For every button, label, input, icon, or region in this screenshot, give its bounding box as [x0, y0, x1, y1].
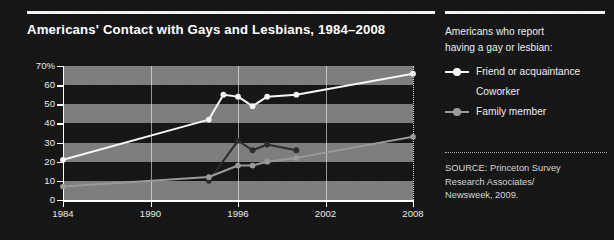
legend-item[interactable]: Coworker: [445, 82, 613, 102]
series-data-point: [410, 134, 416, 140]
series-data-point: [235, 163, 241, 169]
x-axis-tick: [413, 200, 414, 207]
legend-item-label: Family member: [476, 107, 546, 117]
y-axis-tick: [57, 66, 64, 67]
legend-swatch-icon: [445, 67, 469, 77]
series-data-point: [410, 71, 416, 77]
legend-swatch-icon: [445, 107, 469, 117]
series-data-point: [250, 147, 256, 153]
series-data-point: [264, 142, 270, 148]
series-line: [209, 141, 296, 181]
x-axis-tick: [326, 200, 327, 207]
series-data-point: [250, 103, 256, 109]
legend-header-rule: [445, 11, 605, 14]
x-axis-tick: [151, 200, 152, 207]
series-data-point: [293, 147, 299, 153]
x-axis-tick: [238, 200, 239, 207]
series-data-point: [206, 117, 212, 123]
source-note: SOURCE: Princeton Survey Research Associ…: [445, 162, 613, 203]
legend-item-label: Coworker: [476, 87, 520, 97]
legend-panel: Americans who report having a gay or les…: [445, 0, 614, 240]
x-axis-tick: [63, 200, 64, 207]
series-data-point: [60, 184, 66, 190]
y-axis-tick: [57, 85, 64, 86]
source-line-3: Newsweek, 2009.: [445, 189, 613, 203]
series-data-point: [264, 159, 270, 165]
legend-item[interactable]: Friend or acquaintance: [445, 62, 613, 82]
series-data-point: [235, 138, 241, 144]
chart-panel: Americans' Contact with Gays and Lesbian…: [0, 0, 436, 240]
source-line-1: SOURCE: Princeton Survey: [445, 162, 613, 176]
series-data-point: [235, 94, 241, 100]
y-axis-tick: [57, 123, 64, 124]
legend-intro: Americans who report having a gay or les…: [445, 24, 613, 56]
y-axis-tick: [57, 104, 64, 105]
legend-intro-line-1: Americans who report: [445, 26, 544, 37]
series-data-point: [250, 163, 256, 169]
series-data-point: [206, 174, 212, 180]
legend-item[interactable]: Family member: [445, 102, 613, 122]
y-axis-tick: [57, 181, 64, 182]
series-data-point: [293, 155, 299, 161]
legend-intro-line-2: having a gay or lesbian:: [445, 42, 553, 53]
legend-item-label: Friend or acquaintance: [476, 67, 580, 77]
legend-swatch-icon: [445, 87, 469, 97]
legend-divider: [445, 152, 607, 153]
series-data-point: [221, 92, 227, 98]
series-data-point: [264, 94, 270, 100]
series-data-point: [293, 92, 299, 98]
y-axis-tick: [57, 162, 64, 163]
source-line-2: Research Associates/: [445, 176, 613, 190]
y-axis-tick: [57, 143, 64, 144]
legend-items: Friend or acquaintanceCoworkerFamily mem…: [445, 62, 613, 122]
